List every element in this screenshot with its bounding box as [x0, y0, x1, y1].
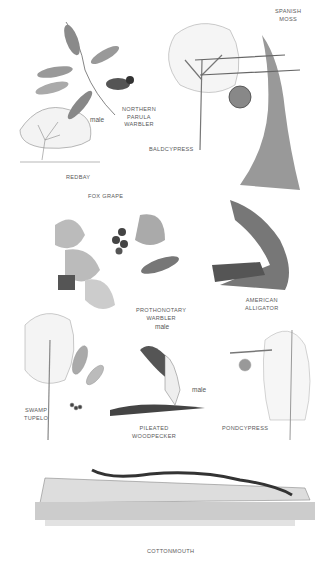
label-line: WOODPECKER [132, 433, 176, 441]
label-line: WARBLER [136, 315, 186, 323]
label-line: PROTHONOTARY [136, 307, 186, 315]
label-line: ALLIGATOR [245, 305, 279, 313]
label-line: PILEATED [132, 425, 176, 433]
label-baldcypress: BALDCYPRESS [149, 146, 194, 154]
label-prothonotary-warbler: PROTHONOTARY WARBLER [136, 307, 186, 322]
label-cottonmouth: COTTONMOUTH [147, 548, 194, 556]
label-line: WARBLER [122, 121, 156, 129]
label-swamp-tupelo: SWAMP TUPELO [24, 407, 48, 422]
label-american-alligator: AMERICAN ALLIGATOR [245, 297, 279, 312]
label-pileated-woodpecker: PILEATED WOODPECKER [132, 425, 176, 440]
northern-parula-illustration [34, 22, 134, 122]
label-line: TUPELO [24, 415, 48, 423]
label-northern-parula-warbler: NORTHERN PARULA WARBLER [122, 106, 156, 129]
label-line: MOSS [275, 16, 301, 24]
cottonmouth-illustration [35, 470, 315, 526]
illustration-plate [0, 0, 322, 565]
label-line: AMERICAN [245, 297, 279, 305]
pondcypress-illustration [230, 330, 310, 440]
label-parula-sex: male [90, 116, 104, 123]
label-line: NORTHERN [122, 106, 156, 114]
pileated-woodpecker-illustration [110, 346, 205, 416]
fox-grape-illustration [55, 214, 181, 309]
american-alligator-illustration [212, 200, 289, 290]
label-prothonotary-sex: male [155, 323, 169, 330]
label-pileated-sex: male [192, 386, 206, 393]
redbay-illustration [20, 108, 100, 163]
label-spanish-moss: SPANISH MOSS [275, 8, 301, 23]
label-line: SWAMP [24, 407, 48, 415]
label-line: SPANISH [275, 8, 301, 16]
baldcypress-illustration [169, 24, 239, 150]
label-line: PARULA [122, 114, 156, 122]
label-redbay: REDBAY [66, 174, 90, 182]
label-fox-grape: FOX GRAPE [88, 193, 123, 201]
label-pondcypress: PONDCYPRESS [222, 425, 268, 433]
